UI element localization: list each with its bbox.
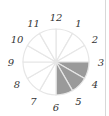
hour-label-1: 1 bbox=[75, 18, 81, 29]
right-border-line bbox=[105, 0, 106, 116]
sectors bbox=[23, 29, 89, 95]
hour-label-4: 4 bbox=[91, 79, 98, 90]
hour-label-5: 5 bbox=[75, 96, 81, 107]
hour-label-11: 11 bbox=[27, 18, 40, 29]
hour-label-3: 3 bbox=[98, 57, 104, 68]
hour-label-2: 2 bbox=[91, 34, 98, 45]
hour-label-9: 9 bbox=[8, 57, 15, 68]
fraction-circle-diagram: 123456789101112 bbox=[0, 0, 109, 116]
hour-label-12: 12 bbox=[50, 12, 63, 23]
hour-label-8: 8 bbox=[14, 79, 20, 90]
hour-label-10: 10 bbox=[11, 34, 24, 45]
hour-label-7: 7 bbox=[30, 96, 37, 107]
hour-label-6: 6 bbox=[53, 102, 60, 113]
